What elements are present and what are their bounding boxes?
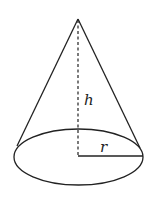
radius-label: r [100, 138, 108, 156]
cone-diagram: h r [0, 0, 153, 200]
height-label: h [84, 91, 94, 109]
cone-left-side [17, 19, 78, 146]
